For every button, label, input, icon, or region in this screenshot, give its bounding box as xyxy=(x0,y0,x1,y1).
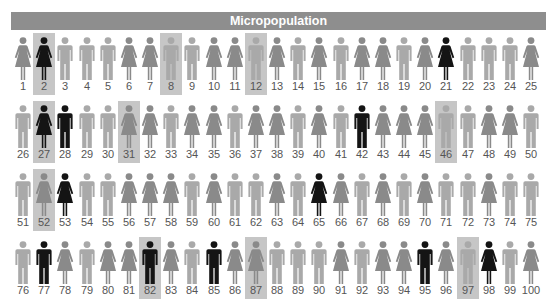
female-figure-icon xyxy=(480,241,498,285)
male-figure-icon xyxy=(14,241,32,285)
female-figure-icon xyxy=(480,105,498,149)
male-figure-icon xyxy=(522,105,540,149)
female-figure-icon xyxy=(374,241,392,285)
female-figure-icon xyxy=(437,37,455,81)
male-figure-icon xyxy=(205,241,223,285)
female-figure-icon xyxy=(35,37,53,81)
female-figure-icon xyxy=(226,37,244,81)
male-figure-icon xyxy=(247,173,265,217)
female-figure-icon xyxy=(416,173,434,217)
female-figure-icon xyxy=(310,173,328,217)
male-figure-icon xyxy=(162,37,180,81)
male-figure-icon xyxy=(459,173,477,217)
female-figure-icon xyxy=(374,105,392,149)
female-figure-icon xyxy=(120,105,138,149)
male-figure-icon xyxy=(437,105,455,149)
male-figure-icon xyxy=(395,37,413,81)
male-figure-icon xyxy=(78,37,96,81)
female-figure-icon xyxy=(332,241,350,285)
male-figure-icon xyxy=(332,105,350,149)
female-figure-icon xyxy=(480,173,498,217)
male-figure-icon xyxy=(480,37,498,81)
female-figure-icon xyxy=(162,173,180,217)
female-figure-icon xyxy=(141,105,159,149)
male-figure-icon xyxy=(332,37,350,81)
female-figure-icon xyxy=(35,105,53,149)
female-figure-icon xyxy=(310,105,328,149)
male-figure-icon xyxy=(459,241,477,285)
male-figure-icon xyxy=(289,37,307,81)
person-figure: 50 xyxy=(520,101,542,163)
male-figure-icon xyxy=(416,241,434,285)
male-figure-icon xyxy=(353,105,371,149)
female-figure-icon xyxy=(416,105,434,149)
male-figure-icon xyxy=(289,173,307,217)
female-figure-icon xyxy=(56,241,74,285)
male-figure-icon xyxy=(183,173,201,217)
male-figure-icon xyxy=(501,37,519,81)
male-figure-icon xyxy=(353,173,371,217)
male-figure-icon xyxy=(183,241,201,285)
male-figure-icon xyxy=(437,173,455,217)
male-figure-icon xyxy=(35,241,53,285)
population-grid: 1234567891011121314151617181920212223242… xyxy=(0,0,556,303)
male-figure-icon xyxy=(99,105,117,149)
male-figure-icon xyxy=(395,173,413,217)
female-figure-icon xyxy=(35,173,53,217)
person-number: 100 xyxy=(514,284,548,297)
female-figure-icon xyxy=(120,173,138,217)
male-figure-icon xyxy=(226,173,244,217)
person-figure: 75 xyxy=(520,169,542,231)
female-figure-icon xyxy=(14,37,32,81)
female-figure-icon xyxy=(120,241,138,285)
male-figure-icon xyxy=(310,241,328,285)
female-figure-icon xyxy=(205,173,223,217)
male-figure-icon xyxy=(99,37,117,81)
male-figure-icon xyxy=(501,173,519,217)
female-figure-icon xyxy=(353,37,371,81)
male-figure-icon xyxy=(289,241,307,285)
male-figure-icon xyxy=(14,105,32,149)
male-figure-icon xyxy=(353,241,371,285)
male-figure-icon xyxy=(522,173,540,217)
female-figure-icon xyxy=(522,241,540,285)
female-figure-icon xyxy=(141,37,159,81)
person-figure: 25 xyxy=(520,33,542,95)
person-number: 50 xyxy=(514,148,548,161)
female-figure-icon xyxy=(374,173,392,217)
male-figure-icon xyxy=(226,105,244,149)
female-figure-icon xyxy=(205,37,223,81)
person-number: 75 xyxy=(514,216,548,229)
female-figure-icon xyxy=(268,173,286,217)
person-number: 25 xyxy=(514,80,548,93)
male-figure-icon xyxy=(14,173,32,217)
female-figure-icon xyxy=(162,241,180,285)
female-figure-icon xyxy=(56,173,74,217)
female-figure-icon xyxy=(395,105,413,149)
female-figure-icon xyxy=(332,173,350,217)
male-figure-icon xyxy=(78,241,96,285)
male-figure-icon xyxy=(459,105,477,149)
male-figure-icon xyxy=(56,105,74,149)
female-figure-icon xyxy=(205,105,223,149)
male-figure-icon xyxy=(501,241,519,285)
female-figure-icon xyxy=(310,37,328,81)
male-figure-icon xyxy=(56,37,74,81)
female-figure-icon xyxy=(247,105,265,149)
male-figure-icon xyxy=(268,241,286,285)
female-figure-icon xyxy=(395,241,413,285)
male-figure-icon xyxy=(459,37,477,81)
female-figure-icon xyxy=(374,37,392,81)
female-figure-icon xyxy=(99,241,117,285)
female-figure-icon xyxy=(247,241,265,285)
female-figure-icon xyxy=(183,105,201,149)
female-figure-icon xyxy=(416,37,434,81)
female-figure-icon xyxy=(226,241,244,285)
female-figure-icon xyxy=(120,37,138,81)
female-figure-icon xyxy=(268,105,286,149)
female-figure-icon xyxy=(501,105,519,149)
female-figure-icon xyxy=(268,37,286,81)
person-figure: 100 xyxy=(520,237,542,299)
male-figure-icon xyxy=(78,173,96,217)
female-figure-icon xyxy=(522,37,540,81)
